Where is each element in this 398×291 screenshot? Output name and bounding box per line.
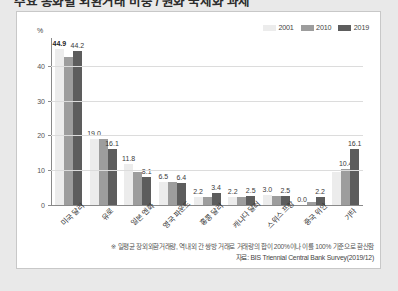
bar-value-label: 6.5 (158, 173, 168, 180)
bar-slot (332, 38, 341, 205)
bar-slot: 11.8 (124, 38, 133, 205)
bar-slot: 2.2 (228, 38, 237, 205)
bar-value-label: 2.5 (280, 187, 290, 194)
bar-value-label: 2.2 (193, 188, 203, 195)
y-tick-label: 20 (15, 132, 45, 139)
page-headline: 주요 통화별 외환거래 비중 / 원화 국제화 과제 (14, 0, 250, 7)
bar-slot: 3.0 (263, 38, 272, 205)
bar-2010 (133, 172, 142, 205)
bar-slot: 2.2 (316, 38, 325, 205)
bar-slot: 6.5 (159, 38, 168, 205)
gridline-20 (51, 135, 363, 136)
y-tick-mark (48, 101, 51, 102)
gridline-10 (51, 170, 363, 171)
plot-area: % 44.944.219.016.111.88.16.56.42.23.42.2… (17, 12, 382, 270)
bar-2010 (168, 182, 177, 205)
bar-slot: 44.2 (73, 38, 82, 205)
bar-slot: 2.2 (194, 38, 203, 205)
axis-box: 44.944.219.016.111.88.16.56.42.23.42.22.… (51, 38, 363, 205)
bar-value-label: 2.2 (315, 188, 325, 195)
bar-slot: 10.4 (341, 38, 350, 205)
bar-slot (64, 38, 73, 205)
gridline-40 (51, 66, 363, 67)
bar-group: 0.02.2 (294, 38, 329, 205)
bar-2010 (272, 196, 281, 205)
headline-strip: 주요 통화별 외환거래 비중 / 원화 국제화 과제 (0, 0, 398, 7)
y-tick-label: 10 (15, 167, 45, 174)
bar-2010 (64, 57, 73, 205)
bar-value-label: 2.2 (228, 188, 238, 195)
bar-slot (203, 38, 212, 205)
bar-2001 (332, 172, 341, 205)
bar-group: 19.016.1 (86, 38, 121, 205)
bar-group: 44.944.2 (51, 38, 86, 205)
bar-slot (133, 38, 142, 205)
y-tick-label: 0 (15, 202, 45, 209)
bar-slot: 44.9 (55, 38, 64, 205)
bar-slot: 8.1 (142, 38, 151, 205)
bar-slot (307, 38, 316, 205)
y-axis-unit-label: % (37, 27, 43, 34)
bar-slot: 3.4 (212, 38, 221, 205)
bar-groups: 44.944.219.016.111.88.16.56.42.23.42.22.… (51, 38, 363, 205)
y-tick-label: 30 (15, 97, 45, 104)
bar-2010 (99, 139, 108, 205)
page-root: 주요 통화별 외환거래 비중 / 원화 국제화 과제 200120102019 … (0, 0, 398, 291)
y-tick-mark (48, 205, 51, 206)
bar-2010 (203, 197, 212, 205)
y-tick-mark (48, 66, 51, 67)
y-tick-mark (48, 170, 51, 171)
bar-value-label: 6.4 (176, 174, 186, 181)
bar-slot (272, 38, 281, 205)
bar-slot: 2.5 (246, 38, 255, 205)
y-tick-mark (48, 135, 51, 136)
bar-group: 2.22.5 (224, 38, 259, 205)
bar-2010 (237, 197, 246, 205)
bar-2001 (55, 49, 64, 205)
bar-slot (237, 38, 246, 205)
bar-value-label: 16.1 (105, 140, 119, 147)
bar-2001 (194, 197, 203, 205)
bar-2019 (350, 149, 359, 205)
bar-2019 (73, 51, 82, 205)
bar-2001 (159, 182, 168, 205)
bar-value-label: 44.2 (71, 42, 85, 49)
bar-slot: 0.0 (298, 38, 307, 205)
bar-group: 11.88.1 (120, 38, 155, 205)
bar-value-label: 2.5 (246, 187, 256, 194)
bar-group: 3.02.5 (259, 38, 294, 205)
bar-slot: 2.5 (281, 38, 290, 205)
chart-source: 자료: BIS Triennial Central Bank Survey(20… (17, 252, 374, 262)
bar-2019 (108, 149, 117, 205)
bar-value-label: 16.1 (348, 140, 362, 147)
x-axis-label: 유로 (98, 205, 115, 222)
bar-group: 6.56.4 (155, 38, 190, 205)
bar-value-label: 8.1 (142, 168, 152, 175)
gridline-30 (51, 101, 363, 102)
bar-slot: 16.1 (350, 38, 359, 205)
bar-2001 (228, 197, 237, 205)
bar-slot (99, 38, 108, 205)
bar-value-label: 3.4 (211, 184, 221, 191)
x-axis-label: 기타 (341, 205, 358, 222)
bar-slot: 19.0 (90, 38, 99, 205)
bar-slot: 6.4 (177, 38, 186, 205)
bar-value-label: 0.0 (297, 196, 307, 203)
bar-slot: 16.1 (108, 38, 117, 205)
bar-2010 (341, 169, 350, 205)
bar-2001 (90, 139, 99, 205)
bar-group: 10.416.1 (328, 38, 363, 205)
bar-group: 2.23.4 (190, 38, 225, 205)
bar-2001 (263, 195, 272, 205)
y-tick-label: 40 (15, 62, 45, 69)
bar-value-label: 3.0 (262, 186, 272, 193)
chart-card: 200120102019 % 44.944.219.016.111.88.16.… (16, 11, 381, 269)
chart-footnote: ※ 일평균 장외외환거래량, 역내외 간 쌍방 거래로 거래량의 합이 200%… (17, 241, 374, 251)
